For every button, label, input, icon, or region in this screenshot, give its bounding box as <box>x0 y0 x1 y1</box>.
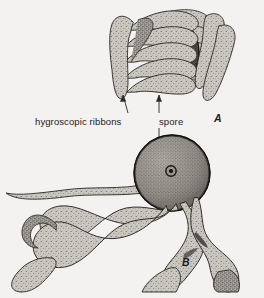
spore-ribbons-drawing <box>0 0 264 298</box>
label-hygroscopic-ribbons: hygroscopic ribbons <box>35 117 121 127</box>
panel-label-a: A <box>214 113 222 124</box>
figure-illustration: hygroscopic ribbons spore A B <box>0 0 264 298</box>
label-spore: spore <box>159 117 183 127</box>
panel-label-b: B <box>182 257 190 268</box>
